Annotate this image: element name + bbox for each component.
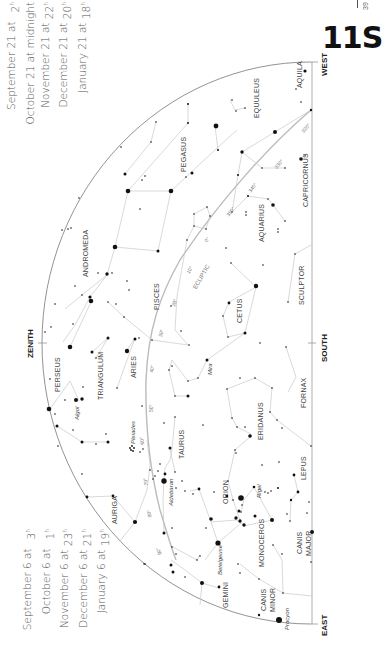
label-east: EAST: [320, 615, 329, 636]
label-betelgeuse: Betelgeuse: [217, 545, 223, 575]
ecliptic-mark: 40°: [148, 365, 155, 373]
label-auriga: AURIGA: [111, 496, 118, 524]
ecliptic-mark: 50°: [148, 404, 154, 412]
label-fornax: FORNAX: [300, 378, 307, 408]
label-canis-major-1: CANIS: [296, 532, 303, 554]
label-eridanus: ERIDANUS: [257, 402, 264, 440]
label-canis-major-2: MAJOR: [305, 531, 312, 557]
label-cetus: CETUS: [236, 298, 243, 323]
horizon-arc: [42, 62, 311, 624]
label-monoceros: MONOCEROS: [258, 519, 265, 567]
label-rigel: Rigel: [256, 484, 262, 498]
label-orion: ORION: [222, 480, 229, 504]
label-canis-minor-1: CANIS: [260, 589, 267, 611]
label-zenith: ZENITH: [26, 329, 35, 358]
label-canis-minor-2: MINOR: [269, 588, 276, 612]
label-pegasus: PEGASUS: [180, 137, 187, 172]
label-taurus: TAURUS: [178, 430, 185, 459]
label-sculptor: SCULPTOR: [298, 265, 305, 305]
label-triangulum: TRIANGULUM: [97, 352, 104, 400]
label-procyon: Procyon: [284, 608, 290, 630]
label-aries: ARIES: [130, 356, 137, 378]
label-south: SOUTH: [320, 334, 329, 362]
label-aquila: AQUILA: [296, 61, 303, 88]
label-lepus: LEPUS: [300, 456, 307, 480]
label-equuleus: EQUULEUS: [253, 78, 260, 118]
label-capricornus: CAPRICORNUS: [302, 153, 309, 207]
ecliptic-mark: 60°: [138, 437, 145, 445]
label-gemini: GEMINI: [222, 582, 229, 608]
pleiades-cluster: [129, 445, 135, 452]
label-algol: Algol: [74, 407, 80, 420]
constellation-lines: [50, 100, 312, 605]
label-pisces: PISCES: [153, 283, 160, 310]
ecliptic-mark: 70°: [142, 478, 149, 486]
label-pleiades: Pleiades: [130, 421, 136, 444]
label-perseus: PERSEUS: [54, 357, 61, 392]
label-andromeda: ANDROMEDA: [82, 230, 89, 277]
label-mira: Mira: [207, 363, 213, 375]
label-aquarius: AQUARIUS: [258, 204, 265, 242]
label-aldebaran: Aldebaran: [168, 479, 174, 506]
label-west: WEST: [320, 53, 329, 76]
